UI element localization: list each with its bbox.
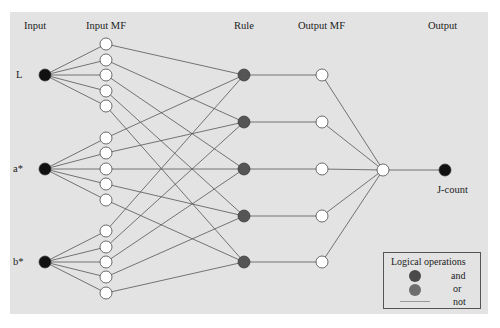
edge bbox=[106, 184, 244, 216]
input-mf-node bbox=[100, 178, 112, 190]
edge bbox=[45, 262, 106, 277]
output-node bbox=[439, 164, 451, 176]
edge bbox=[45, 262, 106, 293]
input-mf-node bbox=[100, 147, 112, 159]
output-mf-node bbox=[316, 69, 328, 81]
input-mf-node bbox=[100, 194, 112, 206]
edge bbox=[45, 247, 106, 262]
output-mf-node bbox=[316, 116, 328, 128]
edge bbox=[45, 75, 106, 106]
legend-or-icon bbox=[409, 284, 421, 296]
edge bbox=[106, 262, 244, 293]
edge bbox=[322, 169, 383, 170]
rule-node bbox=[238, 163, 250, 175]
edge bbox=[322, 122, 383, 170]
edge bbox=[106, 122, 244, 153]
input-mf-node bbox=[100, 163, 112, 175]
input-mf-node bbox=[100, 241, 112, 253]
edge bbox=[45, 231, 106, 262]
edge bbox=[45, 169, 106, 184]
input-label-b-star: b* bbox=[13, 256, 24, 267]
header-input-mf: Input MF bbox=[86, 20, 126, 31]
edge bbox=[106, 60, 244, 122]
edge bbox=[106, 75, 244, 169]
edge bbox=[45, 138, 106, 169]
edge bbox=[45, 44, 106, 75]
edge bbox=[106, 122, 244, 247]
edge bbox=[106, 75, 244, 138]
rule-node bbox=[238, 116, 250, 128]
edge bbox=[106, 216, 244, 277]
input-mf-node bbox=[100, 100, 112, 112]
output-mf-node bbox=[316, 163, 328, 175]
output-label-j-count: J-count bbox=[437, 184, 468, 195]
edge bbox=[322, 170, 383, 262]
edge bbox=[322, 170, 383, 216]
output-mf-node bbox=[316, 256, 328, 268]
edge bbox=[45, 169, 106, 200]
input-mf-node bbox=[100, 85, 112, 97]
input-label-a-star: a* bbox=[13, 163, 23, 174]
aggregation-node bbox=[377, 164, 389, 176]
legend-box: Logical operations and or not bbox=[383, 252, 481, 309]
legend-or-label: or bbox=[453, 283, 461, 294]
edge bbox=[106, 75, 244, 231]
header-input: Input bbox=[24, 20, 46, 31]
edge bbox=[45, 60, 106, 75]
edge bbox=[106, 44, 244, 75]
edge bbox=[322, 75, 383, 170]
rule-node bbox=[238, 256, 250, 268]
header-output-mf: Output MF bbox=[298, 20, 345, 31]
edge bbox=[106, 200, 244, 262]
input-mf-node bbox=[100, 54, 112, 66]
legend-title: Logical operations bbox=[391, 256, 466, 267]
input-label-l: L bbox=[16, 69, 22, 80]
edge bbox=[106, 169, 244, 262]
header-output: Output bbox=[428, 20, 457, 31]
input-mf-node bbox=[100, 69, 112, 81]
legend-not-label: not bbox=[453, 296, 466, 307]
edge bbox=[45, 153, 106, 169]
input-node bbox=[39, 256, 51, 268]
input-mf-node bbox=[100, 287, 112, 299]
input-mf-node bbox=[100, 132, 112, 144]
rule-node bbox=[238, 210, 250, 222]
input-mf-node bbox=[100, 256, 112, 268]
input-node bbox=[39, 69, 51, 81]
legend-not-line-icon bbox=[400, 301, 430, 302]
rule-node bbox=[238, 69, 250, 81]
input-node bbox=[39, 163, 51, 175]
input-mf-node bbox=[100, 271, 112, 283]
input-mf-node bbox=[100, 38, 112, 50]
edge bbox=[45, 75, 106, 91]
header-rule: Rule bbox=[234, 20, 254, 31]
legend-and-label: and bbox=[451, 270, 465, 281]
input-mf-node bbox=[100, 225, 112, 237]
legend-and-icon bbox=[409, 270, 421, 282]
output-mf-node bbox=[316, 210, 328, 222]
